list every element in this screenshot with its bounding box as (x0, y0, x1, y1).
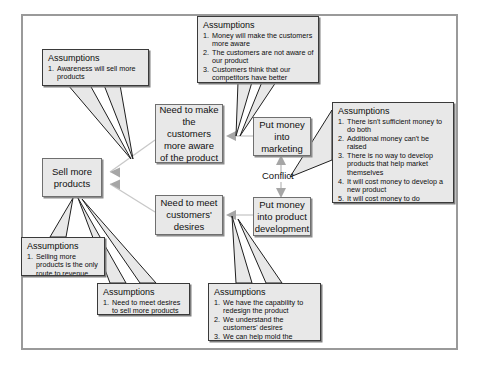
note-item: Customers think that our competitors hav… (203, 66, 314, 83)
note-item: We understand the customers' desires (214, 316, 316, 333)
node-sell-more-products[interactable]: Sell more products (42, 158, 102, 197)
note-meet-desires-list: Need to meet desires to sell more produc… (103, 299, 185, 316)
node-sell-more-products-label: Sell more products (52, 166, 92, 190)
note-conflict-money-title: Assumptions (338, 106, 449, 117)
note-item: We can help mold the desires (214, 333, 316, 341)
note-awareness-sells-list: Awareness will sell more products (48, 65, 144, 82)
note-selling-revenue-list: Selling more products is the only route … (27, 253, 100, 277)
note-item: There is no way to develop products that… (338, 152, 449, 178)
node-need-awareness-label: Need to make the customers more aware of… (159, 104, 218, 164)
note-item: Additional money can't be raised (338, 135, 449, 152)
note-item: Awareness will sell more products (48, 65, 144, 82)
note-conflict-money[interactable]: Assumptions There isn't sufficient money… (332, 102, 454, 203)
note-item: We have the capability to redesign the p… (214, 299, 316, 316)
note-money-awareness-title: Assumptions (203, 20, 314, 31)
note-money-awareness[interactable]: Assumptions Money will make the customer… (197, 16, 319, 83)
note-item: Need to meet desires to sell more produc… (103, 299, 185, 316)
note-item: The customers are not aware of our produ… (203, 49, 314, 66)
note-awareness-sells-title: Assumptions (48, 53, 144, 64)
note-item: It will cost money to develop a new prod… (338, 178, 449, 195)
node-put-money-product-development[interactable]: Put money into product development (253, 197, 311, 236)
note-meet-desires[interactable]: Assumptions Need to meet desires to sell… (97, 283, 190, 315)
note-item: It will cost money to do marketing (338, 195, 449, 203)
node-need-meet-desires-label: Need to meet customers' desires (160, 197, 217, 233)
note-capability-title: Assumptions (214, 287, 316, 298)
note-conflict-money-list: There isn't sufficient money to do both … (338, 118, 449, 204)
note-meet-desires-title: Assumptions (103, 287, 185, 298)
node-put-money-marketing-label: Put money into marketing (259, 119, 304, 155)
note-selling-revenue[interactable]: Assumptions Selling more products is the… (21, 237, 105, 276)
node-need-awareness[interactable]: Need to make the customers more aware of… (155, 104, 223, 163)
note-item: Selling more products is the only route … (27, 253, 100, 277)
note-item: There isn't sufficient money to do both (338, 118, 449, 135)
diagram-canvas: Sell more products Need to make the cust… (0, 0, 480, 369)
note-awareness-sells[interactable]: Assumptions Awareness will sell more pro… (42, 49, 149, 86)
note-money-awareness-list: Money will make the customers more aware… (203, 32, 314, 84)
node-put-money-marketing[interactable]: Put money into marketing (253, 117, 311, 156)
node-put-money-product-development-label: Put money into product development (255, 199, 309, 235)
node-need-meet-desires[interactable]: Need to meet customers' desires (155, 195, 223, 235)
conflict-label: Conflict (262, 170, 294, 181)
note-capability[interactable]: Assumptions We have the capability to re… (208, 283, 321, 341)
note-capability-list: We have the capability to redesign the p… (214, 299, 316, 342)
note-selling-revenue-title: Assumptions (27, 241, 100, 252)
note-item: Money will make the customers more aware (203, 32, 314, 49)
